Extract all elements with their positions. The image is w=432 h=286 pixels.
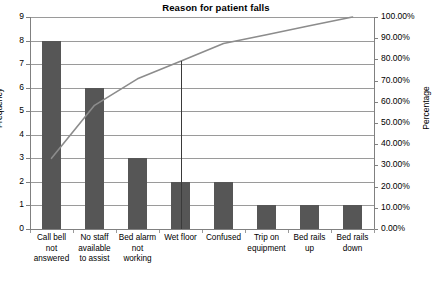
x-axis-category-label: Bed railsdown [324, 233, 381, 254]
category-label-line: Bed rails [324, 233, 381, 244]
pareto-chart: Reason for patient falls 0123456789 0.00… [0, 0, 432, 286]
y-axis-right-title: Percentage [421, 86, 431, 129]
category-label-line: working [109, 254, 166, 265]
category-label-line: not [109, 244, 166, 255]
eighty-percent-marker-line [181, 61, 182, 229]
y-axis-left-title: Frequency [0, 88, 4, 128]
category-label-line: down [324, 244, 381, 255]
